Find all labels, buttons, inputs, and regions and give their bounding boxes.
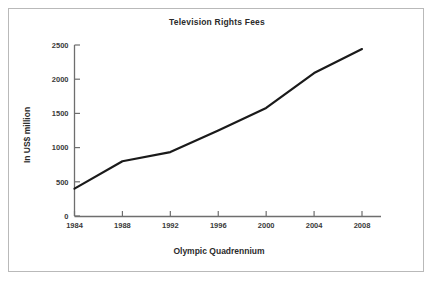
x-tick-label: 1984 [66,221,84,230]
x-tick-label: 1988 [114,221,131,230]
chart-figure: Television Rights Fees In US$ million Ol… [0,0,434,282]
x-tick-label: 1996 [210,221,227,230]
plot-area: 05001000150020002500 1984198819921996200… [0,0,434,282]
y-tick-label: 2500 [52,41,69,50]
y-axis-ticks: 05001000150020002500 [52,41,80,221]
x-tick-label: 2004 [306,221,324,230]
data-series-line [75,49,363,189]
x-tick-label: 2000 [258,221,275,230]
y-tick-label: 2000 [52,75,69,84]
x-axis-ticks: 1984198819921996200020042008 [66,211,370,230]
y-tick-label: 500 [56,178,69,187]
y-tick-label: 1500 [52,109,69,118]
y-tick-label: 1000 [52,143,69,152]
x-tick-label: 2008 [354,221,371,230]
x-tick-label: 1992 [162,221,179,230]
y-tick-label: 0 [64,212,68,221]
